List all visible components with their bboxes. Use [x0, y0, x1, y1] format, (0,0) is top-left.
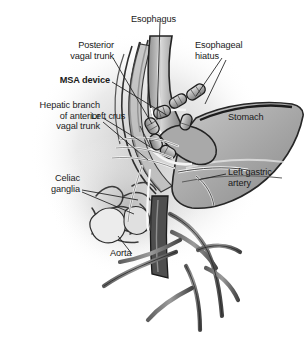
label-msa-device: MSA device: [0, 75, 110, 86]
label-celiac-ganglia: Celiac ganglia: [0, 173, 80, 194]
label-posterior-vagal-trunk: Posterior vagal trunk: [0, 40, 114, 61]
label-esophagus: Esophagus: [131, 14, 176, 25]
label-aorta: Aorta: [110, 248, 131, 259]
illustration-figure: Esophagus Esophageal hiatus Posterior va…: [0, 0, 305, 353]
label-stomach: Stomach: [228, 112, 264, 123]
aorta: [151, 196, 169, 278]
label-left-gastric-artery: Left gastric artery: [228, 167, 272, 188]
label-left-crus: Left crus: [91, 111, 125, 122]
label-esophageal-hiatus: Esophageal hiatus: [195, 40, 243, 61]
label-hepatic-branch: Hepatic branch of anterior vagal trunk: [0, 100, 100, 132]
